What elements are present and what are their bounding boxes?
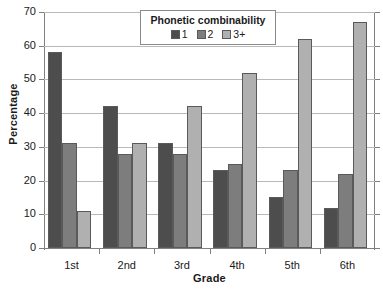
bar-1st-series-3+ (77, 211, 92, 248)
y-tick-label: 30 (6, 140, 36, 152)
y-tick-label: 70 (6, 5, 36, 17)
x-tick-mark (265, 249, 266, 254)
bar-4th-series-3+ (242, 73, 257, 248)
gridline (44, 79, 375, 80)
gridline (44, 113, 375, 114)
y-tick-mark (39, 12, 44, 13)
bar-3rd-series-1 (158, 143, 173, 248)
y-tick-label: 60 (6, 39, 36, 51)
y-tick-mark-right (375, 46, 380, 47)
legend: Phonetic combinability 123+ (140, 10, 276, 45)
y-tick-mark (39, 79, 44, 80)
y-tick-label: 20 (6, 174, 36, 186)
bar-2nd-series-2 (118, 154, 133, 248)
bar-5th-series-1 (269, 197, 284, 248)
bar-2nd-series-1 (103, 106, 118, 248)
legend-label-3+: 3+ (233, 29, 245, 40)
legend-title: Phonetic combinability (145, 14, 271, 27)
y-tick-mark-right (375, 214, 380, 215)
y-tick-mark (39, 214, 44, 215)
bar-1st-series-1 (48, 52, 63, 248)
plot-area: 010203040506070 1st2nd3rd4th5th6th (44, 12, 375, 249)
y-tick-mark-right (375, 181, 380, 182)
y-tick-mark-right (375, 79, 380, 80)
x-tick-mark (154, 249, 155, 254)
y-tick-label: 0 (6, 241, 36, 253)
bar-5th-series-2 (283, 170, 298, 248)
legend-entry-3+: 3+ (222, 29, 245, 40)
y-tick-mark-right (375, 113, 380, 114)
bar-chart: Percentage Grade 010203040506070 1st2nd3… (0, 0, 383, 290)
bar-1st-series-2 (62, 143, 77, 248)
y-tick-mark (39, 248, 44, 249)
bar-3rd-series-3+ (187, 106, 202, 248)
bar-6th-series-3+ (353, 22, 368, 248)
y-tick-mark-right (375, 147, 380, 148)
y-tick-mark (39, 181, 44, 182)
legend-swatch-2 (197, 30, 206, 39)
bar-4th-series-1 (213, 170, 228, 248)
x-tick-mark (320, 249, 321, 254)
y-tick-mark (39, 113, 44, 114)
legend-swatch-3+ (222, 30, 231, 39)
gridline (44, 46, 375, 47)
gridline (44, 181, 375, 182)
bar-4th-series-2 (228, 164, 243, 248)
x-tick-label-1st: 1st (44, 259, 100, 271)
x-tick-label-5th: 5th (264, 259, 320, 271)
gridline (44, 147, 375, 148)
y-tick-label: 40 (6, 106, 36, 118)
x-tick-label-6th: 6th (319, 259, 375, 271)
x-tick-label-2nd: 2nd (99, 259, 155, 271)
legend-items: 123+ (145, 29, 271, 40)
x-tick-label-3rd: 3rd (154, 259, 210, 271)
bar-2nd-series-3+ (132, 143, 147, 248)
y-tick-label: 10 (6, 207, 36, 219)
bar-3rd-series-2 (173, 154, 188, 248)
legend-label-1: 1 (182, 29, 188, 40)
y-tick-mark-right (375, 248, 380, 249)
x-axis-title: Grade (44, 272, 375, 284)
bar-5th-series-3+ (298, 39, 313, 248)
x-tick-label-4th: 4th (209, 259, 265, 271)
bar-6th-series-1 (324, 208, 339, 248)
y-tick-mark (39, 46, 44, 47)
x-tick-mark (210, 249, 211, 254)
bar-6th-series-2 (338, 174, 353, 248)
y-tick-label: 50 (6, 72, 36, 84)
legend-entry-1: 1 (171, 29, 188, 40)
x-tick-mark (99, 249, 100, 254)
legend-swatch-1 (171, 30, 180, 39)
y-tick-mark (39, 147, 44, 148)
legend-entry-2: 2 (197, 29, 214, 40)
legend-label-2: 2 (208, 29, 214, 40)
y-tick-mark-right (375, 12, 380, 13)
